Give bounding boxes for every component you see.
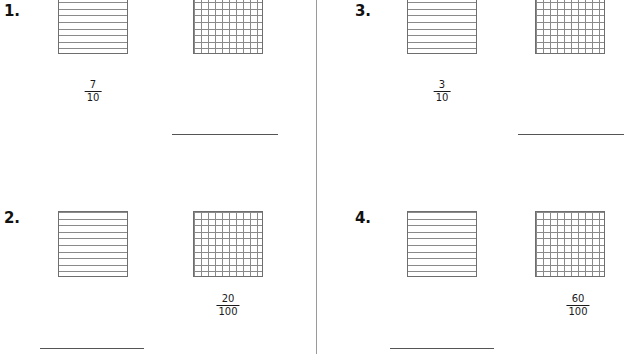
fraction-label-3: 3 10 (434, 80, 451, 104)
fraction-denominator: 100 (566, 306, 589, 317)
answer-blank-2[interactable] (40, 348, 144, 349)
problem-number-1: 1. (4, 4, 20, 19)
fraction-label-1: 7 10 (85, 80, 102, 104)
tenths-grid-4[interactable] (407, 211, 477, 277)
fraction-numerator: 7 (88, 80, 98, 91)
fraction-denominator: 10 (85, 92, 102, 103)
fraction-numerator: 20 (220, 294, 237, 305)
fraction-numerator: 60 (570, 294, 587, 305)
tenths-grid-2[interactable] (58, 211, 128, 277)
fraction-label-2: 20 100 (216, 294, 239, 318)
problem-number-2: 2. (4, 211, 20, 226)
fraction-denominator: 100 (216, 306, 239, 317)
hundredths-grid-1[interactable] (193, 0, 263, 54)
hundredths-grid-3[interactable] (535, 0, 605, 54)
fraction-numerator: 3 (437, 80, 447, 91)
fraction-label-4: 60 100 (566, 294, 589, 318)
tenths-grid-3[interactable] (407, 0, 477, 54)
problem-number-3: 3. (355, 4, 371, 19)
tenths-grid-1[interactable] (58, 0, 128, 54)
problem-number-4: 4. (355, 211, 371, 226)
answer-blank-1[interactable] (172, 134, 278, 135)
hundredths-grid-2[interactable] (193, 211, 263, 277)
hundredths-grid-4[interactable] (535, 211, 605, 277)
column-divider (316, 0, 317, 354)
answer-blank-3[interactable] (518, 134, 624, 135)
fraction-denominator: 10 (434, 92, 451, 103)
answer-blank-4[interactable] (390, 348, 494, 349)
